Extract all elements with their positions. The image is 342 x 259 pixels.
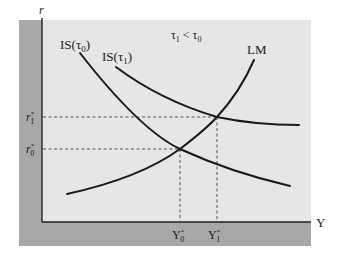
is-tau0-label: IS(τ0) bbox=[60, 37, 90, 54]
r0-star-label: r*0 bbox=[26, 142, 35, 158]
is-tau1-label: IS(τ1) bbox=[102, 49, 132, 66]
x-axis-label: Y bbox=[316, 215, 326, 230]
y0-star-label: Y*0 bbox=[172, 228, 185, 244]
condition-label: τ1 < τ0 bbox=[171, 28, 201, 44]
r1-star-label: r*1 bbox=[26, 110, 35, 126]
axis-band-left bbox=[19, 20, 42, 246]
is-lm-diagram: r Y τ1 < τ0 IS(τ0) IS(τ1) LM r*1 r*0 Y*0… bbox=[0, 0, 342, 259]
axis-band-bottom bbox=[19, 222, 311, 246]
y1-star-label: Y*1 bbox=[208, 228, 221, 244]
y-axis-label: r bbox=[39, 3, 44, 17]
lm-label: LM bbox=[247, 42, 267, 57]
